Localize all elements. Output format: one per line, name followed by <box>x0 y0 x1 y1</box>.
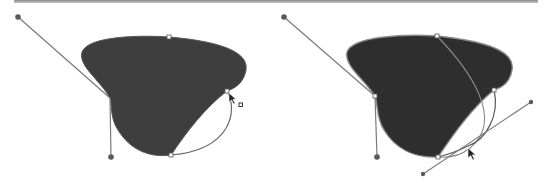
direction-point[interactable] <box>374 154 380 160</box>
anchor-point[interactable] <box>225 89 229 93</box>
panel-after <box>281 14 533 176</box>
direction-point[interactable] <box>281 14 287 20</box>
panel-before <box>15 14 246 160</box>
direction-point[interactable] <box>15 14 21 20</box>
anchor-point[interactable] <box>435 34 439 38</box>
direction-point[interactable] <box>421 172 425 176</box>
diagram-canvas <box>0 0 552 183</box>
direction-point[interactable] <box>529 100 533 104</box>
filled-shape <box>82 36 247 155</box>
anchor-point[interactable] <box>169 153 173 157</box>
anchor-point[interactable] <box>436 155 440 159</box>
anchor-point[interactable] <box>492 88 496 92</box>
direct-select-cursor-icon <box>468 148 476 160</box>
anchor-point[interactable] <box>167 35 171 39</box>
filled-shape <box>347 35 513 157</box>
anchor-point[interactable] <box>373 94 377 98</box>
direction-point[interactable] <box>108 154 114 160</box>
